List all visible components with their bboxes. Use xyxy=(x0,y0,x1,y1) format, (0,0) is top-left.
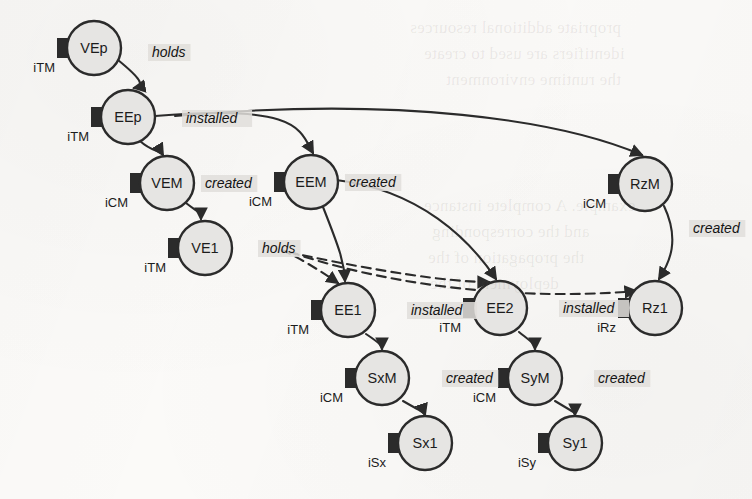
node-label-eem: EEM xyxy=(295,174,326,190)
node-eem[interactable]: EEMiCM xyxy=(249,155,338,209)
node-ee1[interactable]: EE1iTM xyxy=(287,283,375,337)
edge-label-text-e12: installed xyxy=(411,302,464,318)
node-vep[interactable]: VEpiTM xyxy=(33,21,121,75)
edge-label-text-e14: created xyxy=(446,370,494,386)
port-label-ee2: iTM xyxy=(439,320,461,335)
edge-eem-to-ee1 xyxy=(323,207,345,281)
edge-label-text-e15: created xyxy=(598,370,646,386)
edge-ve1-to-ee2 xyxy=(288,252,489,282)
edge-label-text-e9: holds xyxy=(262,240,295,256)
edge-label-e12: installed xyxy=(407,302,477,319)
port-label-sxm: iCM xyxy=(320,390,343,405)
node-vem[interactable]: VEMiCM xyxy=(105,156,194,210)
edge-label-text-e6: created xyxy=(349,174,397,190)
edge-label-e6: created xyxy=(345,174,401,191)
edge-label-e5: created xyxy=(201,175,257,192)
edge-vep-to-eep xyxy=(118,60,140,88)
node-label-rz1: Rz1 xyxy=(642,300,668,316)
edge-label-e9: holds xyxy=(258,240,301,257)
node-label-ve1: VE1 xyxy=(191,240,218,256)
node-layer: VEpiTMEEpiTMVEMiCMEEMiCMRzMiCMVE1iTMEE1i… xyxy=(33,21,682,470)
node-label-vem: VEM xyxy=(151,175,182,191)
node-label-sy1: Sy1 xyxy=(563,435,588,451)
port-label-eep: iTM xyxy=(67,129,89,144)
edge-label-e8: created xyxy=(689,220,745,237)
node-label-sx1: Sx1 xyxy=(413,435,438,451)
edge-label-e14: created xyxy=(442,370,498,387)
port-label-vem: iCM xyxy=(105,195,128,210)
edge-label-e13: installed xyxy=(559,300,629,317)
node-sy1[interactable]: Sy1iSy xyxy=(518,416,602,470)
edge-ee1-to-sxm xyxy=(366,334,382,349)
port-label-rz1: iRz xyxy=(597,320,616,335)
node-label-sxm: SxM xyxy=(368,370,397,386)
node-ve1[interactable]: VE1iTM xyxy=(144,221,232,275)
port-label-sx1: iSx xyxy=(368,455,387,470)
edge-eep-to-vem xyxy=(140,141,163,155)
node-label-rzm: RzM xyxy=(630,176,660,192)
port-label-sym: iCM xyxy=(473,390,496,405)
node-label-sym: SyM xyxy=(521,370,550,386)
edge-label-e1: holds xyxy=(148,44,191,61)
edge-label-e15: created xyxy=(594,370,650,387)
edge-label-text-e13: installed xyxy=(563,300,616,316)
node-sx1[interactable]: Sx1iSx xyxy=(368,416,452,470)
node-label-vep: VEp xyxy=(80,40,107,56)
port-label-rzm: iCM xyxy=(583,196,606,211)
port-label-eem: iCM xyxy=(249,194,272,209)
edge-rzm-to-rz1 xyxy=(659,206,672,279)
edge-label-text-e8: created xyxy=(693,220,741,236)
edge-sym-to-sy1 xyxy=(555,401,575,415)
edge-label-text-e1: holds xyxy=(152,44,185,60)
edge-label-text-e5: created xyxy=(205,175,253,191)
edge-label-text-e3: installed xyxy=(186,110,239,126)
node-label-ee2: EE2 xyxy=(486,300,513,316)
node-rzm[interactable]: RzMiCM xyxy=(583,157,672,211)
port-label-ve1: iTM xyxy=(144,260,166,275)
node-sxm[interactable]: SxMiCM xyxy=(320,351,409,405)
port-label-vep: iTM xyxy=(33,60,55,75)
edge-label-e3: installed xyxy=(182,110,252,127)
instance-deployment-diagram: VEpiTMEEpiTMVEMiCMEEMiCMRzMiCMVE1iTMEE1i… xyxy=(0,0,752,499)
edge-vem-to-ve1 xyxy=(186,203,201,219)
port-label-sy1: iSy xyxy=(518,455,537,470)
node-label-eep: EEp xyxy=(114,109,141,125)
edge-sxm-to-sx1 xyxy=(403,401,425,415)
node-label-ee1: EE1 xyxy=(334,302,361,318)
edge-eem-to-ee2 xyxy=(336,180,496,279)
port-label-ee1: iTM xyxy=(287,322,309,337)
node-eep[interactable]: EEpiTM xyxy=(67,90,155,144)
edge-ee2-to-sym xyxy=(519,332,535,349)
